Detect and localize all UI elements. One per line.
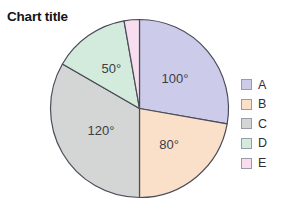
pie-slice-label-b: 80° [159, 137, 179, 152]
legend-item-c[interactable]: C [241, 114, 281, 134]
legend-item-a[interactable]: A [241, 75, 281, 95]
legend-label: A [258, 79, 266, 92]
pie-slice-label-c: 120° [88, 123, 115, 138]
legend-swatch-icon [241, 118, 252, 129]
legend-swatch-icon [241, 158, 252, 169]
legend-label: C [258, 118, 267, 131]
legend-label: B [258, 98, 266, 111]
legend-item-b[interactable]: B [241, 95, 281, 115]
legend-label: D [258, 137, 267, 150]
legend-item-d[interactable]: D [241, 134, 281, 154]
legend-swatch-icon [241, 99, 252, 110]
pie-chart-figure: Chart title 100°80°120°50° ABCDE [0, 0, 281, 217]
pie-slices-group [50, 20, 228, 198]
legend-swatch-icon [241, 138, 252, 149]
pie-slice-label-d: 50° [102, 61, 122, 76]
pie-slice-b[interactable] [140, 109, 228, 198]
legend-swatch-icon [241, 79, 252, 90]
legend-item-e[interactable]: E [241, 153, 281, 173]
legend-label: E [258, 157, 266, 170]
pie-slice-label-a: 100° [162, 71, 189, 86]
legend: ABCDE [241, 75, 281, 173]
chart-title: Chart title [7, 9, 68, 24]
pie-svg: 100°80°120°50° [0, 0, 281, 217]
